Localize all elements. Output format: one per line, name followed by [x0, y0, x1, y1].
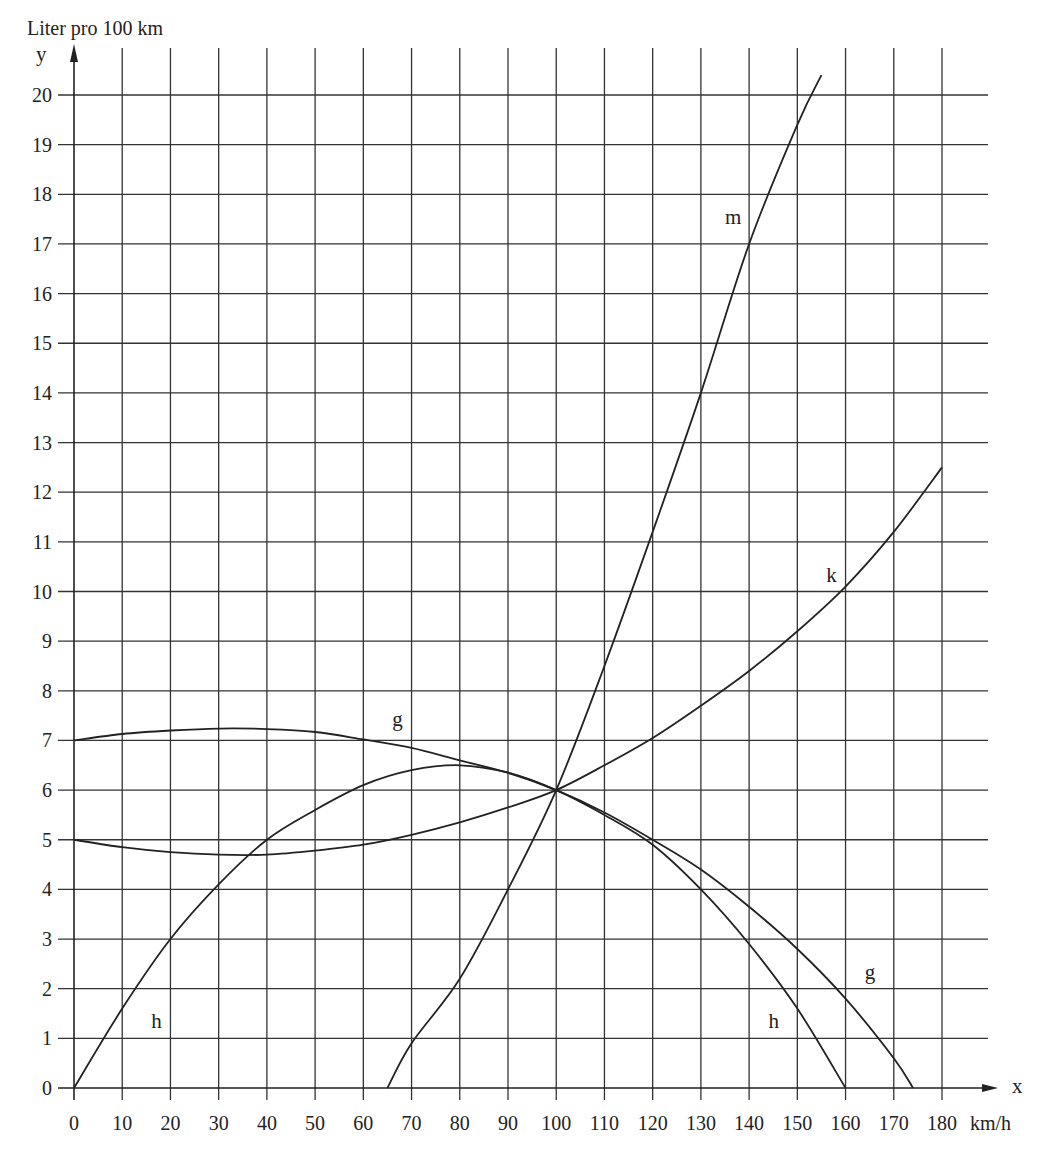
x-tick-label: 140: [734, 1112, 764, 1134]
x-tick-label: 160: [831, 1112, 861, 1134]
x-axis-unit: km/h: [970, 1112, 1011, 1134]
x-tick-label: 60: [353, 1112, 373, 1134]
curve-label-h: h: [151, 1009, 162, 1033]
y-tick-label: 14: [32, 382, 52, 404]
grid-lines: [58, 48, 988, 1100]
x-axis-arrow-icon: [982, 1084, 998, 1092]
y-axis-arrow-icon: [70, 44, 78, 62]
axes: [58, 44, 998, 1100]
y-tick-label: 10: [32, 581, 52, 603]
y-tick-label: 19: [32, 134, 52, 156]
curve-label-k: k: [826, 563, 837, 587]
curve-label-g: g: [865, 960, 876, 984]
curve-label-m: m: [725, 205, 741, 229]
y-tick-label: 3: [42, 928, 52, 950]
y-tick-label: 6: [42, 779, 52, 801]
x-tick-label: 40: [257, 1112, 277, 1134]
y-tick-label: 18: [32, 183, 52, 205]
y-tick-label: 11: [33, 531, 52, 553]
y-tick-label: 2: [42, 978, 52, 1000]
x-tick-label: 80: [450, 1112, 470, 1134]
x-tick-label: 120: [638, 1112, 668, 1134]
x-tick-label: 150: [782, 1112, 812, 1134]
curve-label-h: h: [768, 1009, 779, 1033]
y-tick-label: 8: [42, 680, 52, 702]
y-tick-label: 12: [32, 481, 52, 503]
x-tick-label: 0: [69, 1112, 79, 1134]
y-tick-label: 16: [32, 283, 52, 305]
curve-labels: mkgghh: [151, 205, 876, 1033]
y-tick-label: 5: [42, 829, 52, 851]
y-axis-title: Liter pro 100 km: [27, 17, 164, 40]
y-tick-label: 13: [32, 432, 52, 454]
x-tick-label: 20: [160, 1112, 180, 1134]
x-tick-label: 130: [686, 1112, 716, 1134]
x-tick-label: 50: [305, 1112, 325, 1134]
x-tick-label: 70: [402, 1112, 422, 1134]
x-tick-label: 10: [112, 1112, 132, 1134]
curve-g: [74, 728, 913, 1088]
x-tick-label: 170: [879, 1112, 909, 1134]
y-tick-label: 20: [32, 84, 52, 106]
y-tick-label: 17: [32, 233, 52, 255]
x-tick-label: 110: [590, 1112, 619, 1134]
y-tick-label: 9: [42, 630, 52, 652]
x-axis-symbol: x: [1012, 1074, 1023, 1098]
y-axis-symbol: y: [36, 42, 47, 66]
y-tick-label: 15: [32, 332, 52, 354]
x-tick-label: 30: [209, 1112, 229, 1134]
x-tick-label: 100: [541, 1112, 571, 1134]
x-tick-label: 180: [927, 1112, 957, 1134]
y-tick-label: 4: [42, 878, 52, 900]
y-tick-label: 7: [42, 729, 52, 751]
x-tick-label: 90: [498, 1112, 518, 1134]
y-tick-label: 1: [42, 1027, 52, 1049]
y-tick-label: 0: [42, 1077, 52, 1099]
fuel-consumption-chart: 0102030405060708090100110120130140150160…: [0, 0, 1039, 1152]
curve-label-g: g: [392, 707, 403, 731]
